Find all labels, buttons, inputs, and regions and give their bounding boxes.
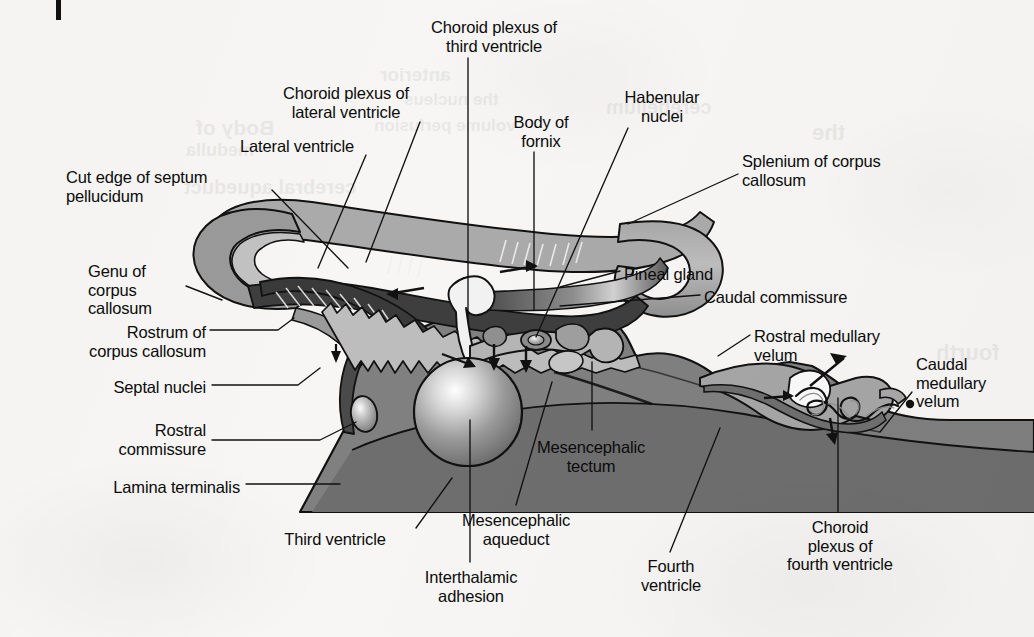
label-mesencephalic-aqueduct: Mesencephalic aqueduct — [434, 511, 598, 548]
label-choroid-plexus-fourth-ventricle: Choroid plexus of fourth ventricle — [760, 518, 920, 574]
label-fourth-ventricle: Fourth ventricle — [624, 557, 718, 594]
label-caudal-commissure: Caudal commissure — [704, 288, 914, 307]
label-septal-nuclei: Septal nuclei — [88, 378, 206, 397]
page-edge-mark — [56, 0, 61, 20]
label-mesencephalic-tectum: Mesencephalic tectum — [512, 438, 670, 475]
interthalamic-adhesion-sphere — [414, 358, 522, 466]
label-lamina-terminalis: Lamina terminalis — [60, 478, 240, 497]
label-body-of-fornix: Body of fornix — [495, 113, 587, 150]
velum-attachment-dot — [906, 400, 914, 408]
label-interthalamic-adhesion: Interthalamic adhesion — [400, 568, 542, 605]
leader-splenium-of-corpus-callosum — [628, 174, 738, 224]
label-cut-edge-of-septum-pellucidum: Cut edge of septum pellucidum — [66, 168, 278, 205]
label-pineal-gland: Pineal gland — [624, 265, 754, 284]
leader-septal-nuclei — [212, 368, 320, 385]
label-habenular-nuclei: Habenular nuclei — [604, 88, 720, 125]
leader-rostral-medullary-velum — [718, 335, 750, 356]
label-genu-of-corpus-callosum: Genu of corpus callosum — [88, 262, 180, 318]
arrow-lamina — [331, 344, 341, 363]
leader-rostrum-of-corpus-callosum — [210, 318, 294, 330]
label-rostral-commissure: Rostral commissure — [82, 421, 206, 458]
leader-rostral-commissure — [212, 422, 356, 440]
figure-page: Body ofmedullacerebral aqueductthe midbr… — [0, 0, 1034, 637]
label-caudal-medullary-velum: Caudal medullary velum — [916, 355, 1028, 411]
label-third-ventricle: Third ventricle — [256, 530, 414, 549]
label-lateral-ventricle: Lateral ventricle — [212, 137, 382, 156]
label-choroid-plexus-lateral-ventricle: Choroid plexus of lateral ventricle — [250, 84, 442, 121]
label-splenium-of-corpus-callosum: Splenium of corpus callosum — [742, 152, 962, 189]
pineal-gland-shape — [556, 324, 589, 350]
callosal-hatching-left — [388, 256, 422, 277]
label-choroid-plexus-third-ventricle: Choroid plexus of third ventricle — [396, 18, 592, 55]
label-rostrum-of-corpus-callosum: Rostrum of corpus callosum — [36, 323, 206, 360]
